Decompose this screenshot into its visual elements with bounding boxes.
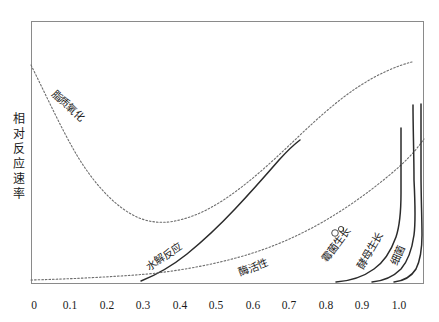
x-tick-7: 0.7: [282, 300, 296, 312]
x-tick-9: 0.9: [355, 300, 369, 312]
x-tick-1: 0.1: [63, 300, 77, 312]
plot-area: [0, 0, 439, 322]
x-tick-4: 0.4: [173, 300, 187, 312]
x-tick-0: 0: [31, 300, 37, 312]
water-activity-stability-chart: 相 对 反 应 速 率 脂质氧化 水解反应 酶活性 霉菌生长 酵母生长 细菌 0…: [0, 0, 439, 322]
x-tick-3: 0.3: [136, 300, 150, 312]
x-tick-10: 1.0: [392, 300, 406, 312]
x-tick-6: 0.6: [246, 300, 260, 312]
x-tick-5: 0.5: [209, 300, 223, 312]
curve-lipid-oxidation: [31, 62, 412, 222]
x-tick-2: 0.2: [100, 300, 114, 312]
x-tick-8: 0.8: [319, 300, 333, 312]
